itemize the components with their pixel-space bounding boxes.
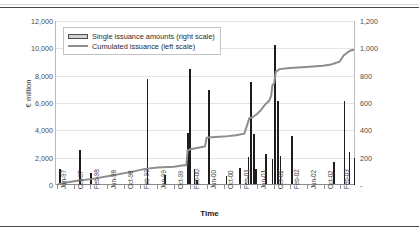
- x-tick-mark-3: [107, 185, 108, 189]
- x-axis-tick-17: Feb-03: [343, 169, 350, 189]
- y-axis-left-tick-1: 2,000: [7, 154, 53, 163]
- legend-label-line: Cumulated issuance (left scale): [92, 42, 195, 51]
- y-axis-left-tick-0: 0: [7, 181, 53, 190]
- x-tick-mark-15: [307, 185, 308, 189]
- document-rule-top: [0, 7, 419, 8]
- x-tick-mark-16: [324, 185, 325, 189]
- chart-legend: Single issuance amounts (right scale) Cu…: [63, 27, 221, 55]
- x-tick-mark-10: [224, 185, 225, 189]
- x-tick-mark-8: [190, 185, 191, 189]
- x-tick-mark-0: [57, 185, 58, 189]
- y-axis-right-tick-5: 1,000: [360, 44, 406, 53]
- legend-item-line: Cumulated issuance (left scale): [68, 41, 215, 51]
- x-axis-tick-15: Jun-02: [310, 170, 317, 189]
- legend-label-bars: Single issuance amounts (right scale): [92, 32, 215, 41]
- y-axis-left-tick-6: 12,000: [7, 17, 53, 26]
- x-axis-tick-1: Oct-97: [77, 170, 84, 189]
- x-axis-tick-5: Feb-99: [143, 169, 150, 189]
- legend-line-swatch-icon: [68, 45, 88, 47]
- y-axis-right-tick-3: 600: [360, 99, 406, 108]
- x-tick-mark-5: [140, 185, 141, 189]
- x-axis-tick-7: Oct-99: [177, 170, 184, 189]
- x-axis-tick-8: Feb-00: [193, 169, 200, 189]
- x-tick-mark-9: [207, 185, 208, 189]
- x-tick-mark-11: [240, 185, 241, 189]
- x-axis-tick-11: Feb-01: [243, 169, 250, 189]
- chart-page: 02,0004,0006,0008,00010,00012,000 -20040…: [0, 0, 419, 234]
- legend-item-bars: Single issuance amounts (right scale): [68, 31, 215, 41]
- x-axis-tick-14: Feb-02: [293, 169, 300, 189]
- x-tick-mark-4: [124, 185, 125, 189]
- y-axis-right-tick-2: 400: [360, 126, 406, 135]
- y-axis-left-tick-5: 10,000: [7, 44, 53, 53]
- x-axis-tick-16: Oct-02: [327, 170, 334, 189]
- x-axis-tick-6: Jun-99: [160, 170, 167, 189]
- y-axis-right-tick-4: 800: [360, 72, 406, 81]
- document-rule-bottom: [0, 226, 419, 227]
- y-axis-title: € million: [24, 64, 33, 124]
- x-axis-tick-9: Jun-00: [210, 170, 217, 189]
- x-tick-mark-17: [340, 185, 341, 189]
- x-axis-tick-3: Jun-98: [110, 170, 117, 189]
- y-axis-right-tick-6: 1,200: [360, 17, 406, 26]
- y-axis-right-tick-1: 200: [360, 154, 406, 163]
- x-tick-mark-7: [174, 185, 175, 189]
- x-axis-tick-12: Jun-01: [260, 170, 267, 189]
- x-tick-mark-1: [74, 185, 75, 189]
- issuance-chart: 02,0004,0006,0008,00010,00012,000 -20040…: [0, 11, 419, 223]
- x-tick-mark-6: [157, 185, 158, 189]
- x-axis-tick-4: Oct-98: [127, 170, 134, 189]
- y-axis-left-tick-2: 4,000: [7, 126, 53, 135]
- x-axis-tick-0: Jun-97: [60, 170, 67, 189]
- x-axis-tick-10: Oct-00: [227, 170, 234, 189]
- x-axis-tick-2: Feb-98: [93, 169, 100, 189]
- x-tick-mark-2: [90, 185, 91, 189]
- x-tick-mark-12: [257, 185, 258, 189]
- x-tick-mark-14: [290, 185, 291, 189]
- y-axis-right-tick-0: -: [360, 181, 406, 190]
- x-axis-tick-13: Oct-01: [277, 170, 284, 189]
- document-rule-top-hairline: [0, 4, 419, 5]
- x-tick-mark-13: [274, 185, 275, 189]
- legend-bar-swatch-icon: [68, 34, 88, 39]
- x-axis-title: Time: [0, 209, 419, 218]
